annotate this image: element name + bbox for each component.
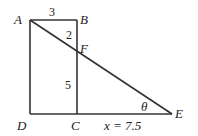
measure-AB: 3	[49, 5, 55, 19]
measure-FC: 5	[65, 78, 71, 92]
point-label-A: A	[13, 12, 22, 27]
point-label-B: B	[80, 12, 88, 27]
geometry-diagram: A B F D C E 3 2 5 x = 7.5 θ	[0, 0, 198, 136]
angle-theta-label: θ	[141, 99, 148, 114]
segment-AE	[30, 20, 172, 114]
measure-CE: x = 7.5	[103, 118, 142, 133]
point-label-E: E	[174, 106, 183, 121]
point-label-F: F	[79, 41, 89, 56]
measure-BF: 2	[66, 28, 72, 42]
point-label-D: D	[16, 118, 27, 133]
point-label-C: C	[71, 118, 80, 133]
